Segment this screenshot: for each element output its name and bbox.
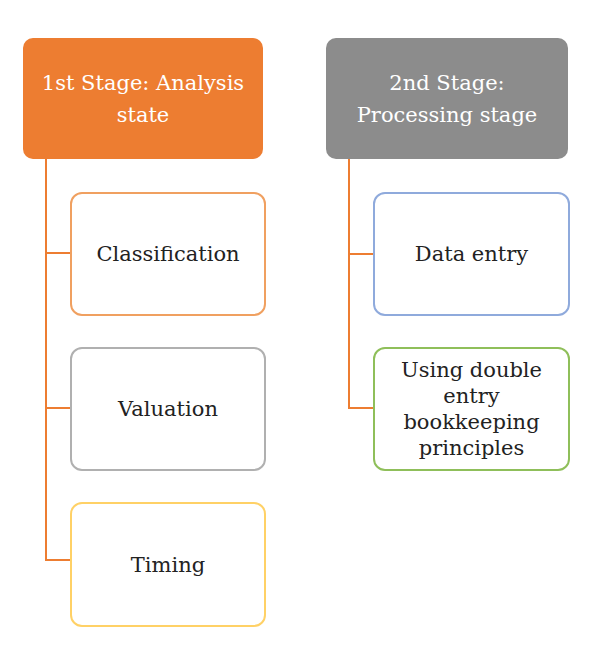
stage-2-header: 2nd Stage: Processing stage <box>326 38 568 159</box>
node-label: Data entry <box>415 241 528 267</box>
stage-1-connector-vertical <box>45 159 47 561</box>
node-valuation: Valuation <box>70 347 266 471</box>
node-label: Valuation <box>118 396 218 422</box>
connector-double-entry <box>348 407 373 409</box>
node-double-entry-bookkeeping: Using double entry bookkeeping principle… <box>373 347 570 471</box>
connector-data-entry <box>348 253 373 255</box>
node-data-entry: Data entry <box>373 192 570 316</box>
stage-2-connector-vertical <box>348 159 350 409</box>
node-classification: Classification <box>70 192 266 316</box>
connector-timing <box>45 559 70 561</box>
stage-1-title: 1st Stage: Analysis state <box>31 67 255 131</box>
stage-2-title: 2nd Stage: Processing stage <box>334 67 560 131</box>
connector-valuation <box>45 407 70 409</box>
connector-classification <box>45 252 70 254</box>
node-label: Timing <box>131 552 205 578</box>
node-label: Classification <box>96 241 239 267</box>
stage-1-header: 1st Stage: Analysis state <box>23 38 263 159</box>
node-timing: Timing <box>70 502 266 627</box>
node-label: Using double entry bookkeeping principle… <box>381 357 562 461</box>
